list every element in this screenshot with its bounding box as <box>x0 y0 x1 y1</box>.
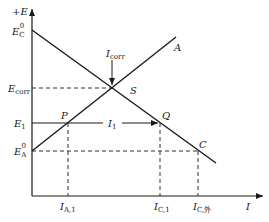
point-q-label: Q <box>162 110 170 121</box>
icorr-label: Icorr <box>105 48 125 61</box>
anodic-polarization-line <box>32 37 176 151</box>
ea0-label: EA0 <box>13 142 27 159</box>
ec0-label: EC0 <box>11 22 25 39</box>
point-c-label: C <box>199 139 207 150</box>
evans-diagram: +E I EC0 Ecorr E1 EA0 S A P Q C Icorr I1… <box>0 0 269 222</box>
ecorr-label: Ecorr <box>7 83 31 96</box>
point-a-label: A <box>173 42 181 53</box>
cathodic-polarization-line <box>32 30 216 163</box>
e1-label: E1 <box>13 118 26 131</box>
point-s-label: S <box>130 85 137 96</box>
y-axis-label: +E <box>12 6 28 17</box>
point-p-label: P <box>60 110 68 121</box>
ia1-label: IA,1 <box>59 201 76 214</box>
x-axis-label: I <box>245 201 251 212</box>
icext-label: IC,外 <box>192 201 211 214</box>
ic1-label: IC,1 <box>153 201 170 214</box>
i1-label: I1 <box>107 118 116 131</box>
